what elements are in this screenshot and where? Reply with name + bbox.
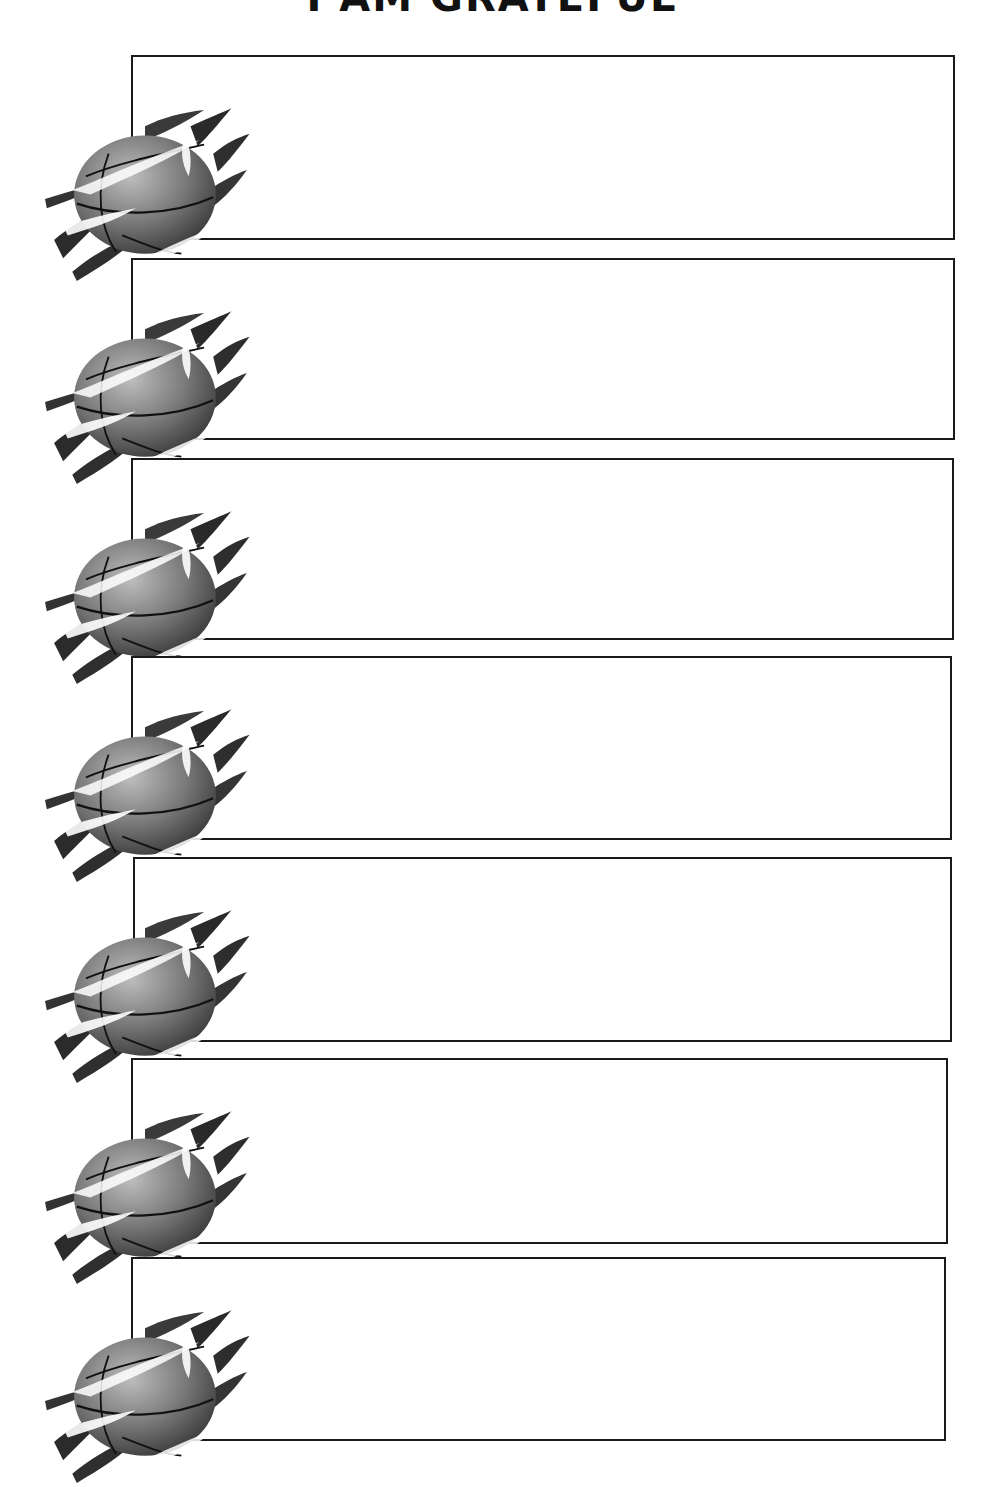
page-title: I AM GRATEFUL [0, 0, 984, 20]
flaming-basketball-icon [30, 1292, 260, 1487]
